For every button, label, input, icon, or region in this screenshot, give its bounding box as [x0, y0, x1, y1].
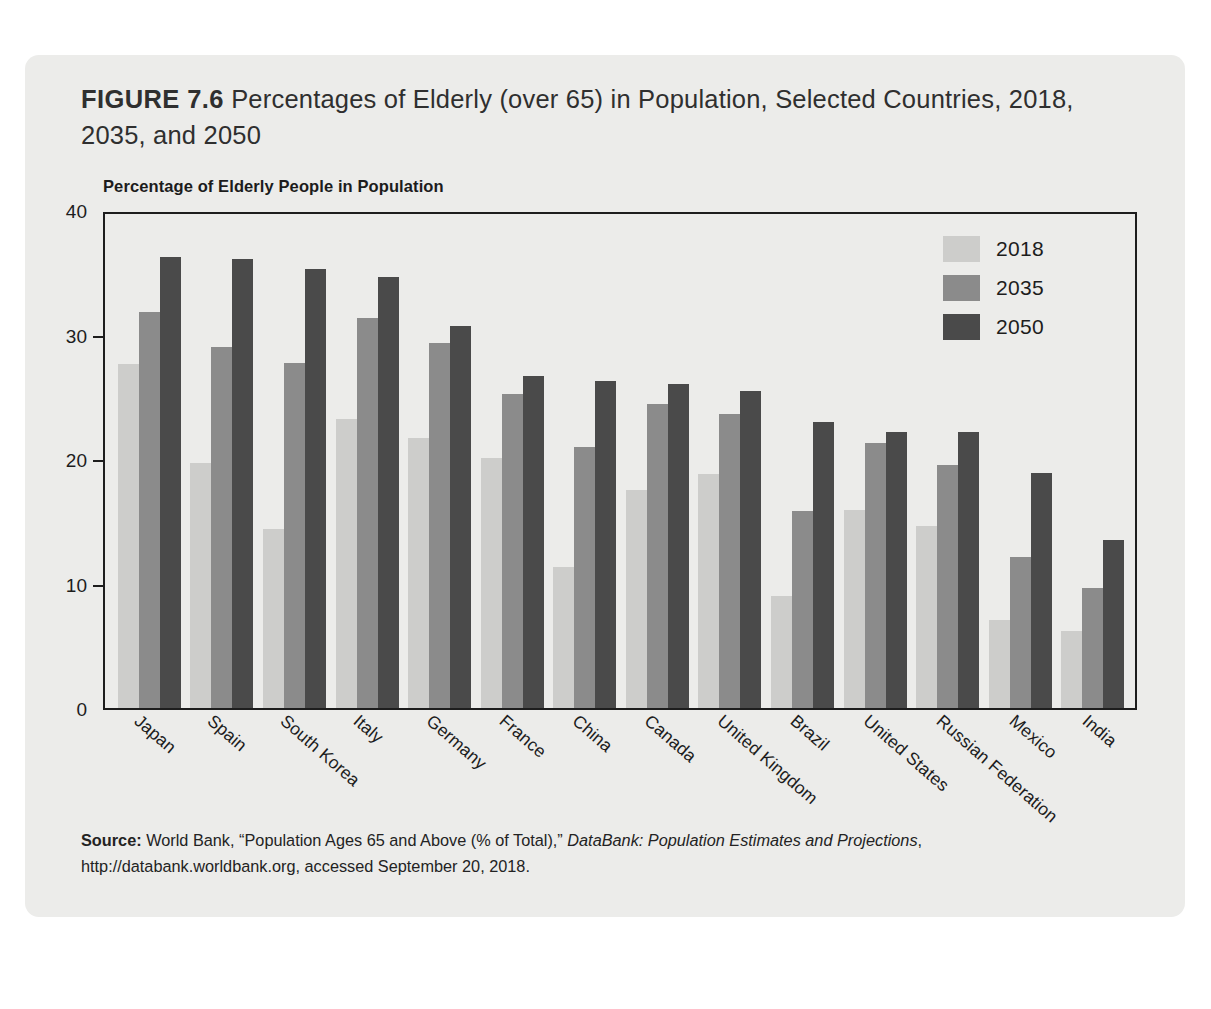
bar-2018: [771, 596, 792, 708]
legend-item: 2035: [943, 275, 1044, 301]
bar-2018: [408, 438, 429, 708]
source-text-b: ,: [918, 831, 923, 849]
bar-2035: [574, 447, 595, 708]
bar-2018: [1061, 631, 1082, 708]
plot-area: 201820352050: [103, 212, 1137, 710]
bar-2018: [844, 510, 865, 708]
x-axis-label: Japan: [130, 711, 180, 758]
bar-group: [839, 214, 912, 708]
legend-swatch-icon: [943, 314, 980, 340]
bar-2035: [937, 465, 958, 708]
y-tick-mark: [93, 460, 103, 462]
legend-swatch-icon: [943, 275, 980, 301]
bar-2050: [160, 257, 181, 708]
bar-2035: [647, 404, 668, 708]
page-title: FIGURE 7.6 Percentages of Elderly (over …: [81, 81, 1111, 153]
bar-2018: [698, 474, 719, 708]
bar-group: [1057, 214, 1130, 708]
bar-2018: [118, 364, 139, 708]
y-tick-mark: [93, 336, 103, 338]
bar-2035: [719, 414, 740, 708]
y-tick-label: 0: [43, 699, 87, 721]
legend-swatch-icon: [943, 236, 980, 262]
bar-2035: [139, 312, 160, 708]
bar-2050: [668, 384, 689, 708]
bar-2035: [357, 318, 378, 708]
source-note: Source: World Bank, “Population Ages 65 …: [81, 827, 1141, 880]
bar-2050: [886, 432, 907, 708]
bar-2050: [813, 422, 834, 708]
bar-group: [766, 214, 839, 708]
y-tick-label: 10: [43, 575, 87, 597]
bar-2035: [865, 443, 886, 708]
bar-group: [258, 214, 331, 708]
bar-2018: [190, 463, 211, 708]
x-axis-label: Mexico: [1005, 711, 1061, 764]
figure-card: FIGURE 7.6 Percentages of Elderly (over …: [25, 55, 1185, 917]
source-url-line: http://databank.worldbank.org, accessed …: [81, 857, 530, 875]
bar-group: [548, 214, 621, 708]
x-axis-label: Italy: [349, 711, 387, 748]
bar-2050: [232, 259, 253, 708]
chart-legend: 201820352050: [943, 236, 1044, 340]
bar-group: [403, 214, 476, 708]
source-label: Source:: [81, 831, 142, 849]
legend-label: 2050: [996, 315, 1044, 339]
bar-2018: [626, 490, 647, 708]
y-tick-label: 30: [43, 326, 87, 348]
bar-2050: [1031, 473, 1052, 708]
figure-title-text: Percentages of Elderly (over 65) in Popu…: [81, 85, 1074, 149]
x-axis-label: India: [1078, 711, 1121, 752]
bar-2035: [502, 394, 523, 708]
bar-2018: [989, 620, 1010, 708]
bar-2018: [336, 419, 357, 708]
bar-2050: [740, 391, 761, 708]
bar-2050: [1103, 540, 1124, 708]
bar-2018: [481, 458, 502, 708]
bar-2035: [284, 363, 305, 708]
legend-label: 2035: [996, 276, 1044, 300]
bar-2050: [958, 432, 979, 708]
bar-group: [694, 214, 767, 708]
bar-2050: [378, 277, 399, 708]
legend-label: 2018: [996, 237, 1044, 261]
bar-2050: [450, 326, 471, 708]
x-axis-label: France: [495, 711, 550, 763]
y-tick-label: 20: [43, 450, 87, 472]
x-axis-label: China: [568, 711, 617, 757]
x-axis-label: Canada: [640, 711, 700, 767]
y-tick-label: 40: [43, 201, 87, 223]
bar-2035: [429, 343, 450, 708]
bar-group: [186, 214, 259, 708]
source-publication: DataBank: Population Estimates and Proje…: [567, 831, 917, 849]
bar-group: [621, 214, 694, 708]
bar-2050: [305, 269, 326, 708]
source-text-a: World Bank, “Population Ages 65 and Abov…: [142, 831, 568, 849]
figure-number: FIGURE 7.6: [81, 85, 224, 113]
legend-item: 2050: [943, 314, 1044, 340]
bar-2018: [553, 567, 574, 708]
chart-axis-caption: Percentage of Elderly People in Populati…: [103, 177, 444, 196]
bar-2018: [263, 529, 284, 708]
x-axis-label: Spain: [203, 711, 251, 757]
y-tick-mark: [93, 585, 103, 587]
x-axis-label: Brazil: [786, 711, 833, 756]
bar-group: [331, 214, 404, 708]
bar-2050: [523, 376, 544, 708]
bar-2035: [211, 347, 232, 708]
bar-2018: [916, 526, 937, 708]
bar-group: [476, 214, 549, 708]
bar-2050: [595, 381, 616, 708]
bar-2035: [1082, 588, 1103, 708]
bar-2035: [1010, 557, 1031, 708]
bar-2035: [792, 511, 813, 708]
legend-item: 2018: [943, 236, 1044, 262]
bar-group: [113, 214, 186, 708]
